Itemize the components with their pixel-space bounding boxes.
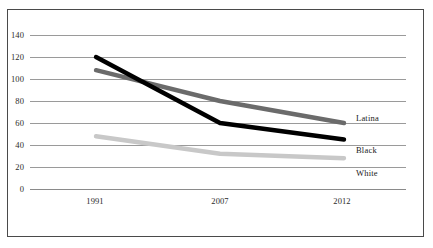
y-tick-label-20: 20 [0,163,24,172]
x-tick-label-2012: 2012 [312,196,372,206]
gridline-80 [30,101,406,102]
chart-figure: 140 120 100 80 60 40 20 0 1991 2007 2012… [0,0,433,248]
y-tick-label-140: 140 [0,31,24,40]
y-tick-label-120: 120 [0,53,24,62]
x-tick-label-1991: 1991 [65,196,125,206]
series-line-black [96,57,344,140]
y-tick-label-40: 40 [0,141,24,150]
gridline-20 [30,167,406,168]
y-tick-label-60: 60 [0,119,24,128]
gridline-120 [30,57,406,58]
y-tick-label-80: 80 [0,97,24,106]
series-label-black: Black [356,145,377,155]
series-label-latina: Latina [356,113,379,123]
series-label-white: White [356,168,378,178]
plot-area: 140 120 100 80 60 40 20 0 1991 2007 2012… [0,0,433,248]
series-line-white [96,136,344,158]
y-tick-label-0: 0 [0,185,24,194]
data-lines-group [0,0,433,248]
gridline-140 [30,35,406,36]
gridline-40 [30,145,406,146]
y-tick-label-100: 100 [0,75,24,84]
gridline-60 [30,123,406,124]
gridline-100 [30,79,406,80]
x-tick-label-2007: 2007 [190,196,250,206]
axis-line-x [30,189,406,190]
